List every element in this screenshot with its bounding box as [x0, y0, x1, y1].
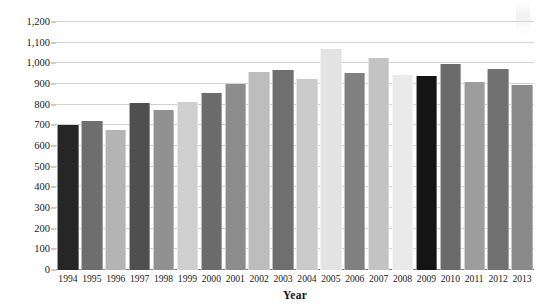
- y-axis-tick-label: 400: [2, 182, 50, 193]
- x-axis-tick-label: 1995: [80, 272, 104, 285]
- bar-2008: [392, 75, 413, 270]
- x-axis-tick-label: 2000: [199, 272, 223, 285]
- y-axis-tick-label: 500: [2, 161, 50, 172]
- x-axis-tick-label: 2011: [462, 272, 486, 285]
- bar-2011: [464, 82, 485, 270]
- y-axis-tick-label: 100: [2, 244, 50, 255]
- bar-2003: [272, 70, 293, 270]
- x-axis-tick-label: 2002: [247, 272, 271, 285]
- x-axis-tick-label: 2005: [319, 272, 343, 285]
- y-axis-tick-label: 1,200: [2, 17, 50, 28]
- y-axis-tick-label: 900: [2, 79, 50, 90]
- y-axis-tick-label: 600: [2, 141, 50, 152]
- bar-2001: [225, 84, 246, 270]
- y-axis-tick-label: 800: [2, 99, 50, 110]
- bar-2004: [296, 79, 317, 270]
- bar-1999: [177, 102, 198, 270]
- x-axis-tick-label: 2010: [438, 272, 462, 285]
- gridline: [56, 83, 534, 84]
- bar-2006: [344, 73, 365, 270]
- gridline: [56, 228, 534, 229]
- bar-2013: [511, 85, 532, 270]
- axis-baseline: [56, 269, 534, 270]
- bar-1997: [129, 103, 150, 270]
- gridline: [56, 124, 534, 125]
- x-axis-tick-label: 2012: [486, 272, 510, 285]
- gridline: [56, 166, 534, 167]
- bar-1996: [105, 130, 126, 270]
- gridline: [56, 186, 534, 187]
- bar-chart: 01002003004005006007008009001,0001,1001,…: [0, 0, 542, 308]
- x-axis-tick-label: 1998: [152, 272, 176, 285]
- bar-2007: [368, 58, 389, 270]
- x-axis-tick-label: 2003: [271, 272, 295, 285]
- x-axis-tick-label: 1994: [56, 272, 80, 285]
- gridline: [56, 21, 534, 22]
- y-axis-tick-label: 0: [2, 265, 50, 276]
- x-axis-tick-label: 1996: [104, 272, 128, 285]
- y-axis-tick-label: 300: [2, 203, 50, 214]
- gridline: [56, 207, 534, 208]
- y-axis-tick-label: 1,000: [2, 58, 50, 69]
- x-axis-tick-label: 2009: [415, 272, 439, 285]
- bar-1998: [153, 110, 174, 270]
- x-axis-tick-label: 1997: [128, 272, 152, 285]
- x-axis-title: Year: [56, 289, 534, 301]
- plot-area: [56, 22, 534, 270]
- x-axis-tick-label: 2006: [343, 272, 367, 285]
- x-axis-tick-label: 2004: [295, 272, 319, 285]
- bar-2000: [201, 93, 222, 270]
- x-axis-tick-label: 2007: [367, 272, 391, 285]
- x-axis-tick-label: 2013: [510, 272, 534, 285]
- bar-2010: [440, 64, 461, 270]
- bar-2009: [416, 76, 437, 270]
- gridline: [56, 62, 534, 63]
- bar-2012: [487, 69, 508, 270]
- gridline: [56, 104, 534, 105]
- gridline: [56, 42, 534, 43]
- x-axis-tick-label: 2001: [223, 272, 247, 285]
- x-axis: 1994199519961997199819992000200120022003…: [56, 272, 534, 288]
- y-axis-tick-label: 200: [2, 223, 50, 234]
- y-axis-tick-label: 700: [2, 120, 50, 131]
- gridline: [56, 248, 534, 249]
- x-axis-tick-label: 1999: [176, 272, 200, 285]
- bar-2002: [248, 72, 269, 270]
- bar-1995: [81, 121, 102, 270]
- x-axis-tick-label: 2008: [391, 272, 415, 285]
- bar-2005: [320, 49, 341, 270]
- y-axis-tick-label: 1,100: [2, 37, 50, 48]
- gridline: [56, 145, 534, 146]
- bar-1994: [57, 125, 78, 270]
